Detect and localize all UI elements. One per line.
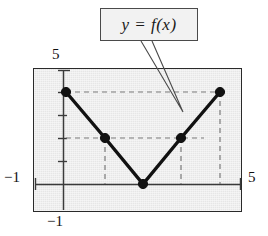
y-axis-min-label: −1: [47, 214, 63, 229]
function-label-text: y = f(x): [121, 16, 176, 33]
x-axis-min-label: −1: [4, 170, 20, 185]
x-axis-max-label: 5: [248, 170, 256, 185]
function-label-callout: y = f(x): [100, 8, 198, 41]
y-axis-max-label: 5: [52, 47, 60, 62]
figure-root: y = f(x) 5 −1 5 −1: [0, 0, 268, 236]
plot-area: [33, 68, 242, 212]
